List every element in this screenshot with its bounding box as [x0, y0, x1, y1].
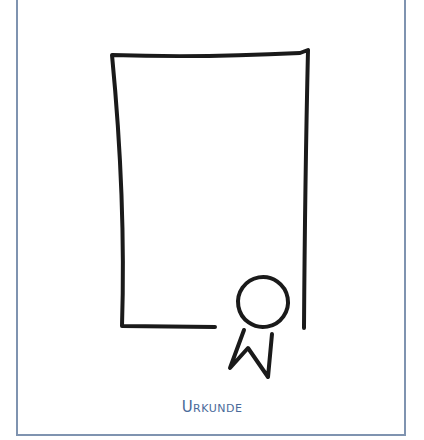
illustration-caption: Urkunde — [0, 398, 424, 416]
certificate-drawing — [0, 0, 424, 440]
rosette-ribbon-icon — [230, 330, 272, 377]
rosette-seal-icon — [234, 273, 292, 331]
certificate-sheet-icon — [112, 50, 308, 328]
